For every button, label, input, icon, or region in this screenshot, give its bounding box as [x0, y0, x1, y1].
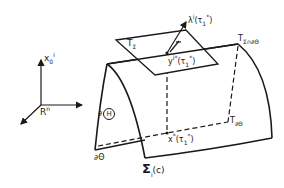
depth-axis — [21, 105, 41, 124]
x0-sup: i — [53, 51, 55, 58]
btheta-text: ∂Θ — [94, 153, 104, 162]
label-boundary-h: ∂H — [98, 108, 115, 120]
label-lambda: λi(τ1*) — [188, 17, 212, 25]
diagram-canvas — [0, 0, 284, 188]
label-x-point: x*(τ1*) — [168, 136, 194, 144]
label-t-boundary: T∂Θ — [230, 117, 243, 125]
tb-sub: ∂Θ — [235, 120, 243, 127]
lambda-close: ) — [209, 16, 212, 25]
label-boundary-theta: ∂Θ — [94, 154, 104, 162]
sigma-text: Σ — [142, 161, 151, 176]
point-y — [165, 51, 168, 54]
bh-partial: ∂ — [98, 109, 102, 118]
theta-boundary-dashed — [98, 122, 228, 146]
left-edge — [95, 64, 107, 150]
axis-label-rn: Rn — [40, 108, 50, 117]
label-tangent-intersection: TΣ∩∂Θ — [238, 35, 259, 43]
label-tangent-plane: TΣ — [127, 39, 136, 48]
vertical-dashed-t — [228, 46, 238, 122]
x-arg: (τ — [176, 135, 184, 144]
axis-label-x0: x0i — [44, 54, 55, 63]
tsigma-sub: Σ — [133, 43, 137, 50]
tangent-plane — [107, 30, 238, 75]
y-close: ) — [192, 57, 195, 66]
coordinate-axes — [21, 60, 82, 124]
lambda-arg-sub: 1 — [202, 20, 206, 27]
y-arg-sub: 1 — [185, 61, 189, 68]
label-sigma: Σi(c) — [142, 162, 165, 175]
x-close: ) — [191, 135, 194, 144]
x0-sub: 0 — [49, 58, 53, 65]
label-y-point: yi*(τ1*) — [168, 58, 195, 66]
bottom-edge — [145, 138, 272, 158]
tint-sub: Σ∩∂Θ — [243, 38, 259, 45]
rn-sup: n — [46, 105, 50, 112]
sigma-arg: (c) — [153, 165, 165, 175]
x-arg-sub: 1 — [184, 139, 188, 146]
bh-circled: H — [103, 108, 115, 120]
right-curve — [238, 44, 272, 138]
